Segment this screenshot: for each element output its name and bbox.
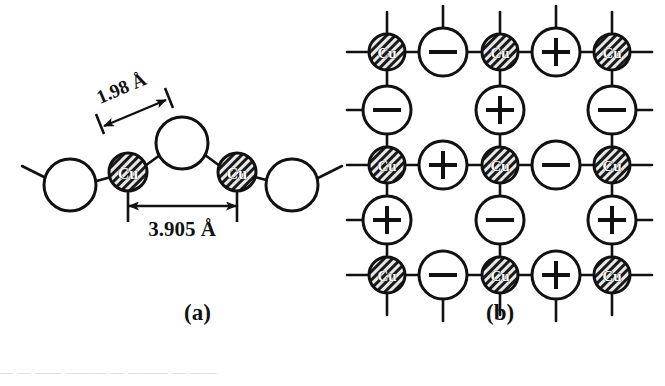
panel-label-a: (a) [184, 300, 211, 326]
lattice-copper-atom-r2-c2: Cu [482, 147, 518, 183]
dim-arrow-198 [104, 100, 166, 126]
lattice-oxygen-positive-r1-c2 [476, 86, 524, 134]
bond-edge-right [316, 166, 342, 179]
lattice-copper-atom-r4-c4: Cu [594, 257, 630, 293]
lattice-oxygen-positive-r3-c0 [363, 196, 411, 244]
copper-label: Cu [490, 45, 509, 61]
bond-o-apex-cu-right [205, 155, 220, 166]
copper-right-atom: Cu [218, 153, 256, 191]
lattice-oxygen-positive-r2-c1 [419, 141, 467, 189]
oxygen-apex-circle [156, 117, 208, 169]
lattice-oxygen-negative-r1-c0 [363, 86, 411, 134]
lattice-oxygen-positive-r3-c4 [588, 196, 636, 244]
lattice-oxygen-negative-r1-c4 [588, 86, 636, 134]
copper-label: Cu [490, 268, 509, 284]
dim-tick-left-198 [96, 114, 104, 134]
figure-container: Cu Cu 1.98 Å 3.905 Å CuCuCuCuCuCu [0, 0, 665, 386]
lattice-copper-atom-r4-c2: Cu [482, 257, 518, 293]
copper-label: Cu [377, 45, 396, 61]
dimension-label-cu-o-bond: 1.98 Å [93, 68, 149, 108]
lattice-copper-atom-r4-c0: Cu [369, 257, 405, 293]
copper-right-label: Cu [227, 165, 248, 182]
dim-tick-right-198 [165, 88, 173, 108]
lattice-oxygen-positive-r0-c3 [532, 28, 580, 76]
cut-off-caption-line: — — —— ——— — ——— — —— [0, 371, 665, 386]
lattice-copper-atom-r2-c4: Cu [594, 147, 630, 183]
copper-label: Cu [602, 268, 621, 284]
dimension-label-cu-cu-spacing: 3.905 Å [148, 217, 217, 241]
copper-label: Cu [490, 158, 509, 174]
bond-cu-o-apex-left [145, 155, 160, 166]
lattice-copper-atom-r0-c0: Cu [369, 34, 405, 70]
cut-off-caption-text: — — —— ——— — ——— — —— [0, 371, 665, 380]
lattice-copper-atom-r0-c2: Cu [482, 34, 518, 70]
lattice-oxygen-negative-r4-c1 [419, 251, 467, 299]
copper-label: Cu [602, 158, 621, 174]
oxygen-left-circle [44, 159, 96, 211]
dimension-cu-cu-spacing: 3.905 Å [128, 192, 237, 241]
panel-b-lattice-group: CuCuCuCuCuCuCuCuCu [347, 6, 652, 321]
lattice-oxygen-negative-r0-c1 [419, 28, 467, 76]
lattice-oxygen-negative-r3-c2 [476, 196, 524, 244]
lattice-oxygen-negative-r2-c3 [532, 141, 580, 189]
oxygen-right-circle [266, 159, 318, 211]
copper-left-label: Cu [118, 165, 139, 182]
lattice-oxygen-positive-r4-c3 [532, 251, 580, 299]
lattice-copper-atom-r2-c0: Cu [369, 147, 405, 183]
copper-label: Cu [602, 45, 621, 61]
copper-label: Cu [377, 158, 396, 174]
figure-svg: Cu Cu 1.98 Å 3.905 Å CuCuCuCuCuCu [0, 0, 665, 386]
panel-a-group: Cu Cu 1.98 Å 3.905 Å [22, 68, 342, 241]
lattice-copper-atom-r0-c4: Cu [594, 34, 630, 70]
dimension-cu-o-bond: 1.98 Å [93, 68, 173, 134]
panel-label-b: (b) [486, 300, 514, 326]
copper-label: Cu [377, 268, 396, 284]
copper-left-atom: Cu [109, 153, 147, 191]
